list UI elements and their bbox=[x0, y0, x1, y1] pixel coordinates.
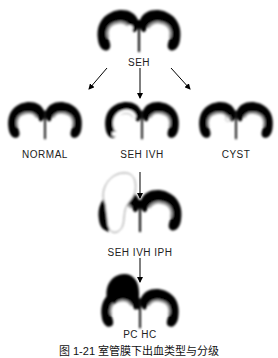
figure-caption: 图 1-21 室管膜下出血类型与分级 bbox=[0, 342, 278, 358]
seh-ivh-iph-ventricle-figure bbox=[95, 170, 185, 240]
label-seh-ivh: SEH IVH bbox=[107, 149, 177, 160]
normal-ventricle-figure bbox=[5, 98, 85, 143]
label-seh-ivh-iph: SEH IVH IPH bbox=[95, 247, 185, 258]
seh-ivh-ventricle-figure bbox=[102, 98, 182, 143]
pc-hc-ventricle-figure bbox=[98, 272, 182, 334]
label-normal: NORMAL bbox=[10, 149, 80, 160]
label-pc-hc: PC HC bbox=[110, 329, 170, 340]
cyst-ventricle-figure bbox=[196, 98, 276, 143]
label-cyst: CYST bbox=[201, 149, 271, 160]
